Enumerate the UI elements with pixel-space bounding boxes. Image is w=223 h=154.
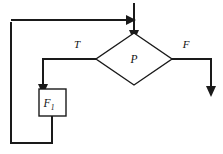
decision-node-label: P (129, 53, 137, 65)
process-node-label-subscript: 1 (51, 103, 55, 112)
edge-true-path (43, 59, 96, 84)
edge-label-true: T (74, 38, 81, 50)
flowchart-figure: P F1 T F (0, 0, 223, 154)
edge-label-false: F (182, 38, 190, 50)
edge-loopback-path (11, 22, 52, 143)
flowchart-canvas: P F1 T F (0, 0, 223, 154)
arrowhead-false-icon (206, 86, 216, 97)
edge-false-path (172, 59, 211, 86)
